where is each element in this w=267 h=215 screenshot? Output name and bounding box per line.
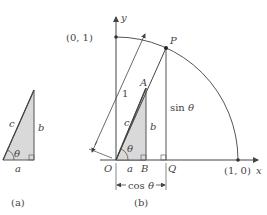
label-a-c: c — [9, 118, 15, 129]
x-axis-label: x — [256, 165, 262, 176]
label-b-point: B — [140, 163, 148, 174]
label-1-0: (1, 0) — [224, 165, 251, 176]
label-q: Q — [168, 163, 176, 174]
y-axis-label: y — [120, 12, 127, 23]
label-radius-1: 1 — [122, 88, 128, 99]
label-a-b: b — [38, 122, 44, 133]
label-b-a: a — [127, 163, 133, 174]
radius-extension-line — [89, 149, 112, 158]
caption-a: (a) — [11, 197, 25, 208]
label-p: P — [169, 35, 177, 46]
label-a-theta: θ — [14, 148, 20, 159]
right-angle-marker-q — [161, 155, 166, 160]
caption-b: (b) — [134, 197, 148, 208]
label-b-b: b — [150, 121, 156, 132]
point-p — [164, 46, 168, 50]
label-b-theta: θ — [127, 143, 133, 154]
label-0-1: (0, 1) — [66, 32, 93, 43]
label-o: O — [104, 163, 112, 174]
diagram-canvas: c b θ a (a) y x (0, 1) (1, 0) 1 P A c b … — [0, 0, 267, 215]
label-sin: sin θ — [170, 102, 194, 113]
label-b-c: c — [124, 117, 130, 128]
point-1-0 — [236, 158, 240, 162]
label-a-a: a — [15, 163, 21, 174]
label-a-point: A — [139, 77, 147, 88]
point-0-1 — [114, 35, 118, 39]
label-cos: cos θ — [128, 180, 154, 191]
